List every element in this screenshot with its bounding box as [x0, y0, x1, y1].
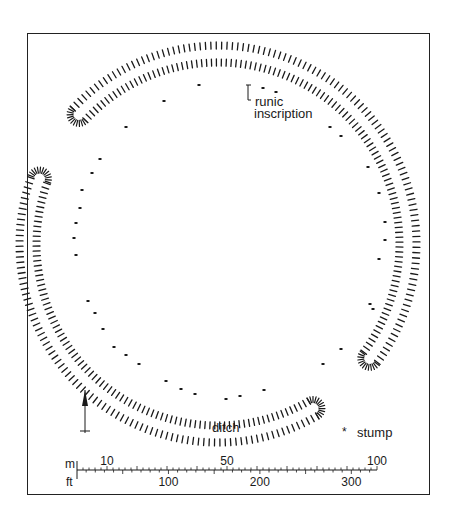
- legend-stump-symbol: *: [342, 426, 347, 439]
- legend-stump-label: stump: [357, 426, 392, 439]
- scale-unit-m: m: [65, 458, 75, 471]
- site-plan-figure: 1050100100200300 runic inscription ditch…: [0, 0, 457, 525]
- ditch-label: ditch: [212, 421, 239, 434]
- svg-text:300: 300: [341, 475, 361, 489]
- runic-label-line2: inscription: [254, 107, 313, 120]
- svg-text:200: 200: [250, 475, 270, 489]
- scale-bar: 1050100100200300: [77, 454, 387, 489]
- runic-inscription-marker: [246, 85, 251, 100]
- ditch-hachures: [16, 42, 420, 446]
- svg-text:100: 100: [158, 475, 178, 489]
- scale-unit-ft: ft: [66, 476, 73, 489]
- svg-text:10: 10: [100, 454, 114, 468]
- north-arrow-icon: [80, 390, 90, 433]
- site-plan-drawing: 1050100100200300: [0, 0, 457, 525]
- svg-text:100: 100: [367, 454, 387, 468]
- stump-markers: [73, 84, 387, 400]
- svg-text:50: 50: [220, 454, 234, 468]
